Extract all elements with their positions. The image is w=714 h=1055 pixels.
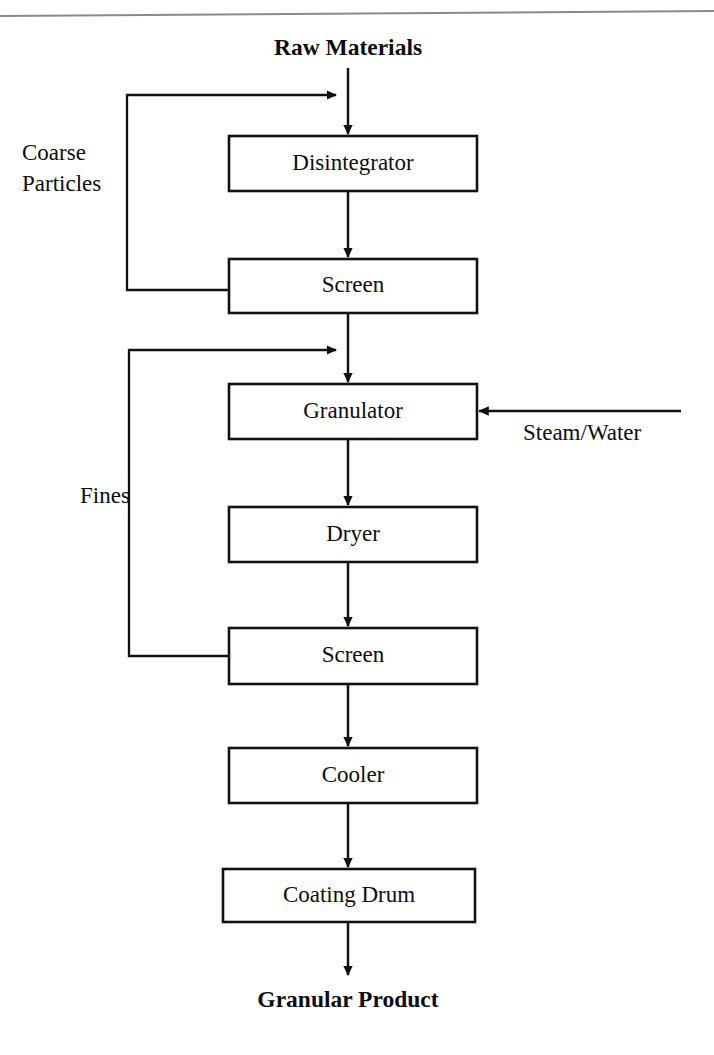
granular-product-label: Granular Product (257, 986, 438, 1012)
process-box-coating-drum-label: Coating Drum (283, 882, 415, 907)
process-box-screen-2-label: Screen (322, 642, 385, 667)
process-box-screen-2[interactable]: Screen (229, 628, 477, 684)
flowchart-canvas: Raw Materials Granular Product Disintegr… (0, 0, 714, 1055)
process-box-cooler[interactable]: Cooler (229, 748, 477, 803)
process-box-dryer-label: Dryer (326, 521, 380, 546)
process-unit-boxes: DisintegratorScreenGranulatorDryerScreen… (223, 136, 477, 922)
raw-materials-label: Raw Materials (274, 34, 422, 60)
process-box-granulator[interactable]: Granulator (229, 384, 477, 439)
stream-label-coarse-particles: CoarseParticles (22, 140, 101, 196)
process-box-cooler-label: Cooler (322, 762, 385, 787)
scan-artifact-line (0, 11, 714, 16)
process-box-screen-1[interactable]: Screen (229, 259, 477, 313)
process-flow-diagram: Raw Materials Granular Product Disintegr… (0, 0, 714, 1055)
process-box-dryer[interactable]: Dryer (229, 507, 477, 562)
process-box-granulator-label: Granulator (303, 398, 403, 423)
process-box-disintegrator[interactable]: Disintegrator (229, 136, 477, 191)
process-box-disintegrator-label: Disintegrator (292, 150, 414, 175)
process-box-screen-1-label: Screen (322, 272, 385, 297)
stream-labels: CoarseParticlesFinesSteam/Water (22, 140, 642, 508)
stream-label-steam-water: Steam/Water (523, 420, 642, 445)
stream-label-fines: Fines (80, 483, 130, 508)
process-box-coating-drum[interactable]: Coating Drum (223, 869, 475, 922)
